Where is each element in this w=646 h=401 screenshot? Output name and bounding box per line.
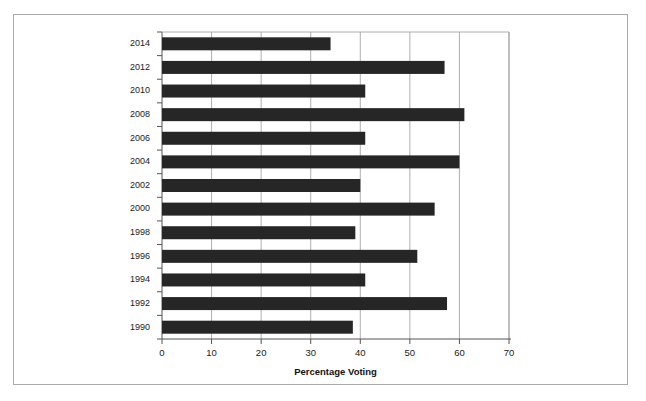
x-axis-tick-label: 50 <box>405 347 416 358</box>
table-row <box>162 297 447 310</box>
x-axis-tick-label: 70 <box>504 347 515 358</box>
x-axis-tick-label: 30 <box>305 347 316 358</box>
table-row <box>162 37 331 50</box>
y-axis-tick-label: 2004 <box>130 156 150 166</box>
bars-group <box>162 37 464 333</box>
y-axis-tick-label: 2014 <box>130 38 150 48</box>
x-axis-tick-label: 10 <box>206 347 217 358</box>
y-axis-tick-label: 1994 <box>130 274 150 284</box>
table-row <box>162 273 365 286</box>
table-row <box>162 132 365 145</box>
table-row <box>162 85 365 98</box>
x-axis-tick-label: 0 <box>159 347 164 358</box>
y-axis-tick-label: 2012 <box>130 62 150 72</box>
bar-chart: 2014201220102008200620042002200019981996… <box>14 15 629 386</box>
y-axis-tick-label: 1996 <box>130 251 150 261</box>
y-axis-tick-labels: 2014201220102008200620042002200019981996… <box>130 32 162 339</box>
table-row <box>162 61 445 74</box>
table-row <box>162 321 353 334</box>
y-axis-tick-label: 1990 <box>130 322 150 332</box>
y-axis-tick-label: 2006 <box>130 133 150 143</box>
table-row <box>162 226 355 239</box>
x-axis-tick-label: 60 <box>454 347 465 358</box>
y-axis-tick-label: 1992 <box>130 298 150 308</box>
y-axis-tick-label: 2010 <box>130 85 150 95</box>
y-axis-tick-label: 2000 <box>130 203 150 213</box>
table-row <box>162 179 360 192</box>
y-axis-tick-label: 1998 <box>130 227 150 237</box>
table-row <box>162 250 417 263</box>
x-axis-title: Percentage Voting <box>294 366 377 377</box>
y-axis-tick-label: 2008 <box>130 109 150 119</box>
table-row <box>162 155 459 168</box>
x-axis-tick-labels: 010203040506070 <box>159 339 514 358</box>
x-axis-tick-label: 20 <box>256 347 267 358</box>
table-row <box>162 108 464 121</box>
figure-frame: 2014201220102008200620042002200019981996… <box>13 14 628 385</box>
x-axis-tick-label: 40 <box>355 347 366 358</box>
y-axis-tick-label: 2002 <box>130 180 150 190</box>
table-row <box>162 203 435 216</box>
